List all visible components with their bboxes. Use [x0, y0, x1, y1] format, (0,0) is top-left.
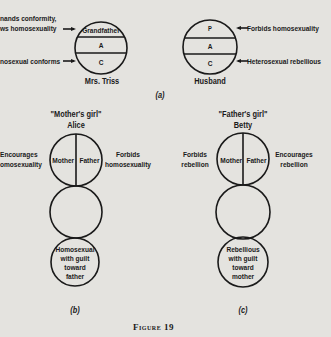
panel-a-label: (a) [152, 91, 168, 100]
figure-19: nands conformity, ws homosexuality nosex… [0, 0, 331, 337]
alice-left-label-1: Encourages [0, 150, 38, 159]
mrs-triss-label-bottom: nosexual conforms [0, 57, 60, 66]
betty-title: "Father's girl" [210, 110, 276, 119]
alice-name: Alice [60, 121, 93, 130]
alice-title: "Mother's girl" [43, 110, 109, 119]
betty-bottom-line-3: toward [223, 263, 264, 272]
alice-right-label-2: homosexuality [105, 160, 151, 169]
betty-right-label-2: rebellion [273, 160, 316, 169]
alice-section-mother: Mother [52, 156, 73, 165]
betty-section-mother: Mother [220, 156, 241, 165]
betty-right-label-1: Encourages [273, 150, 316, 159]
husband-section-p: P [198, 24, 223, 33]
alice-bottom-line-1: Homosexual [55, 245, 96, 254]
husband-section-c: C [198, 59, 223, 68]
alice-bottom-line-2: with guilt [55, 254, 96, 263]
panel-c-label: (c) [235, 306, 251, 315]
panel-b-label: (b) [67, 306, 83, 315]
betty-bottom-line-4: mother [223, 272, 264, 281]
husband-section-a: A [198, 42, 223, 51]
mrs-triss-label-top-2: ws homosexuality [0, 24, 57, 33]
husband-name: Husband [190, 77, 231, 86]
betty-name: Betty [227, 121, 260, 130]
mrs-triss-name: Mrs. Triss [77, 77, 126, 86]
mrs-triss-label-top-1: nands conformity, [0, 14, 56, 23]
alice-bottom-line-4: father [55, 272, 96, 281]
mrs-triss-section-grandfather: Grandfather [82, 26, 120, 35]
betty-section-father: Father [246, 156, 267, 165]
betty-left-label-1: Forbids [176, 150, 214, 159]
husband-label-top: Forbids homosexuality [247, 24, 319, 33]
betty-bottom-line-1: Rebellious [223, 245, 264, 254]
figure-caption: Figure 19 [133, 322, 174, 332]
alice-bottom-line-3: toward [55, 263, 96, 272]
alice-left-label-2: omosexuality [0, 160, 42, 169]
alice-section-father: Father [79, 156, 100, 165]
betty-left-label-2: rebellion [176, 160, 214, 169]
mrs-triss-section-a: A [82, 41, 120, 50]
mrs-triss-section-c: C [82, 58, 120, 67]
husband-label-bottom: Heterosexual rebellious [247, 57, 321, 66]
alice-right-label-1: Forbids [105, 150, 151, 159]
betty-bottom-line-2: with guilt [223, 254, 264, 263]
